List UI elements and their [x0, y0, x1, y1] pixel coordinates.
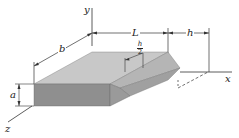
h-label: h	[186, 28, 194, 38]
L-label: L	[131, 28, 140, 38]
z-axis-label: z	[5, 124, 10, 134]
y-axis-label: y	[84, 5, 90, 15]
figure: y x z b L h a h 2	[0, 0, 239, 138]
hidden-edge-dashed	[178, 72, 208, 88]
a-label: a	[10, 90, 16, 100]
b-label: b	[58, 44, 66, 54]
box-front-face	[34, 84, 110, 106]
x-axis-label: x	[225, 74, 231, 84]
z-axis	[8, 106, 32, 122]
h-half-label: h 2	[137, 41, 143, 56]
diagram-svg	[0, 0, 239, 138]
